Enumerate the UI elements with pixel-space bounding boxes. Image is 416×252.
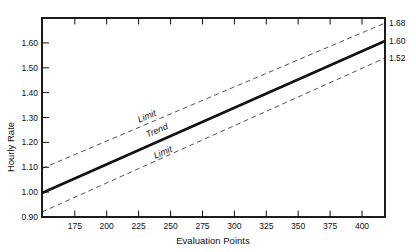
end-label-upper-limit: 1.68 (389, 18, 406, 28)
x-tick-label-6: 325 (259, 221, 273, 231)
y-axis-title: Hourly Rate (5, 122, 16, 172)
line-chart: 0.90 1.00 1.10 1.20 1.30 1.40 1.50 1.60 … (0, 0, 416, 252)
x-tick-label-8: 375 (323, 221, 337, 231)
y-tick-label-7: 1.60 (21, 38, 38, 48)
y-tick-label-2: 1.10 (21, 162, 38, 172)
y-tick-label-4: 1.30 (21, 113, 38, 123)
x-axis-title: Evaluation Points (176, 235, 250, 246)
x-tick-label-0: 175 (68, 221, 82, 231)
x-tick-label-7: 350 (291, 221, 305, 231)
x-tick-label-3: 250 (164, 221, 178, 231)
y-tick-label-0: 0.90 (21, 212, 38, 222)
x-tick-label-2: 225 (132, 221, 146, 231)
x-tick-label-4: 275 (195, 221, 209, 231)
y-tick-label-5: 1.40 (21, 88, 38, 98)
x-tick-label-5: 300 (227, 221, 241, 231)
x-tick-label-9: 400 (355, 221, 369, 231)
end-label-lower-limit: 1.52 (389, 53, 406, 63)
x-tick-label-1: 200 (100, 221, 114, 231)
y-tick-label-3: 1.20 (21, 137, 38, 147)
chart-container: 0.90 1.00 1.10 1.20 1.30 1.40 1.50 1.60 … (0, 0, 416, 252)
y-tick-label-6: 1.50 (21, 63, 38, 73)
y-tick-label-1: 1.00 (21, 187, 38, 197)
end-label-trend: 1.60 (389, 36, 406, 46)
